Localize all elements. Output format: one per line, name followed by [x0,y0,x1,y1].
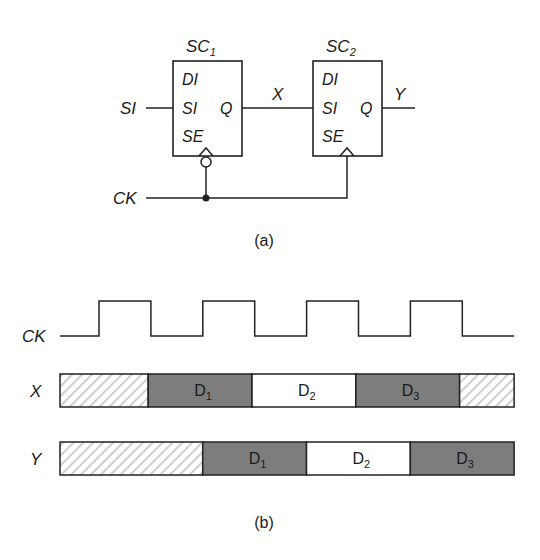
cell-2-title: SC2 [326,37,356,58]
caption-a: (a) [254,232,274,249]
scan-cell-1: SC1 DI SI SE Q [173,37,242,167]
segment-unknown [460,374,514,407]
cell-2-pin-di: DI [322,71,339,88]
schematic: SC1 DI SI SE Q SC2 DI SI SE Q SI X Y CK [113,37,415,249]
timing-ck-label: CK [22,327,46,346]
scan-cell-2: SC2 DI SI SE Q [313,37,382,156]
scan-chain-figure: SC1 DI SI SE Q SC2 DI SI SE Q SI X Y CK [0,0,540,560]
cell-1-pin-se: SE [182,128,204,145]
row-label: Y [30,450,43,469]
signal-y-label: Y [394,85,407,104]
segment-unknown [60,374,148,407]
cell-2-pin-se: SE [322,128,344,145]
segment-unknown [60,442,203,475]
cell-1-pin-q: Q [220,100,232,117]
cell-1-title: SC1 [186,37,216,58]
signal-rows: XD1D2D3YD1D2D3 [29,374,514,475]
caption-b: (b) [254,514,274,531]
input-si-label: SI [120,99,136,118]
signal-row-y: YD1D2D3 [30,442,514,475]
cell-1-pin-si: SI [182,100,198,117]
junction-dot-icon [203,195,210,202]
clock-waveform [60,301,514,336]
cell-1-pin-di: DI [182,71,199,88]
signal-row-x: XD1D2D3 [29,374,514,407]
row-label: X [29,382,42,401]
cell-2-pin-q: Q [360,100,372,117]
clock-ck-label: CK [113,189,137,208]
cell-1-clock-inversion-bubble-icon [201,157,211,167]
timing-diagram: CK XD1D2D3YD1D2D3 (b) [22,301,514,531]
wire-ck [146,156,347,198]
cell-2-pin-si: SI [322,100,338,117]
signal-x-label: X [271,85,284,104]
